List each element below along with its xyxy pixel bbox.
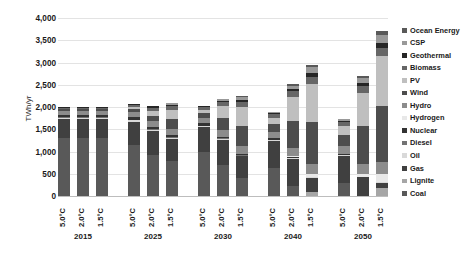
x-group-label-2025: 5.0°C2.0°C1.5°C2025 <box>128 197 178 241</box>
bar[interactable] <box>306 65 318 196</box>
legend-swatch-icon <box>402 153 407 158</box>
bar-group-2025 <box>128 18 178 196</box>
bar-segment-hydro <box>376 162 388 174</box>
legend-item-hydro[interactable]: Hydro <box>402 99 476 112</box>
bar-segment-hydro <box>306 164 318 174</box>
legend-label: Oil <box>410 152 420 159</box>
bar-segment-gas <box>217 140 229 165</box>
y-tick-label: 1,000 <box>12 147 56 156</box>
bar[interactable] <box>338 119 350 196</box>
stacked-bar-chart: TWh/yr 4,0003,5003,0002,5002,0001,5001,0… <box>0 0 476 255</box>
legend-item-hydrogen[interactable]: Hydrogen <box>402 112 476 125</box>
legend-label: PV <box>410 77 420 84</box>
bar-segment-lignite <box>306 192 318 196</box>
bar-segment-coal <box>236 178 248 196</box>
bar-segment-coal <box>77 138 89 196</box>
bar-segment-gas <box>357 177 369 196</box>
scenario-label: 2.0°C <box>147 197 159 227</box>
bar-group-2050 <box>338 18 388 196</box>
legend-item-csp[interactable]: CSP <box>402 37 476 50</box>
legend-swatch-icon <box>402 41 407 46</box>
bar-group-2040 <box>268 18 318 196</box>
bar-segment-pv <box>357 93 369 127</box>
x-axis-labels: 5.0°C2.0°C1.5°C20155.0°C2.0°C1.5°C20255.… <box>58 197 388 255</box>
bar-segment-wind <box>268 124 280 132</box>
bar-segment-hydro <box>287 148 299 156</box>
legend-item-lignite[interactable]: Lignite <box>402 175 476 188</box>
scenario-label: 1.5°C <box>376 197 388 227</box>
bar[interactable] <box>166 103 178 196</box>
legend: Ocean EnergyCSPGeothermalBiomassPVWindHy… <box>402 24 476 200</box>
bar-segment-pv <box>287 97 299 121</box>
scenario-label: 5.0°C <box>198 197 210 227</box>
bar-segment-pv <box>376 56 388 106</box>
legend-label: Geothermal <box>410 52 451 59</box>
legend-label: Diesel <box>410 139 432 146</box>
bar-group-2015 <box>58 18 108 196</box>
legend-swatch-icon <box>402 103 407 108</box>
bar-segment-gas <box>338 156 350 183</box>
legend-item-wind[interactable]: Wind <box>402 87 476 100</box>
legend-item-geothermal[interactable]: Geothermal <box>402 49 476 62</box>
legend-swatch-icon <box>402 53 407 58</box>
y-tick-label: 4,000 <box>12 14 56 23</box>
y-tick-label: 2,000 <box>12 103 56 112</box>
x-group-label-2040: 5.0°C2.0°C1.5°C2040 <box>268 197 318 241</box>
year-label: 2050 <box>354 232 372 241</box>
bar[interactable] <box>128 104 140 196</box>
bar-segment-pv <box>338 126 350 135</box>
bar-segment-pv <box>217 106 229 117</box>
scenario-label: 5.0°C <box>338 197 350 227</box>
bar-segment-pv <box>236 107 248 126</box>
y-tick-label: 2,500 <box>12 80 56 89</box>
bar-segment-wind <box>287 121 299 149</box>
bar-segment-wind <box>376 106 388 162</box>
x-group-label-2050: 5.0°C2.0°C1.5°C2050 <box>338 197 388 241</box>
legend-item-pv[interactable]: PV <box>402 74 476 87</box>
legend-item-diesel[interactable]: Diesel <box>402 137 476 150</box>
bar-segment-gas <box>268 141 280 169</box>
bar[interactable] <box>217 99 229 196</box>
plot-area <box>58 18 388 196</box>
legend-item-oil[interactable]: Oil <box>402 149 476 162</box>
legend-swatch-icon <box>402 191 407 196</box>
bar[interactable] <box>96 107 108 196</box>
scenario-label: 1.5°C <box>306 197 318 227</box>
bar[interactable] <box>198 106 210 196</box>
legend-swatch-icon <box>402 166 407 171</box>
legend-label: Ocean Energy <box>410 27 460 34</box>
y-tick-label: 500 <box>12 169 56 178</box>
bar-segment-hydro <box>338 146 350 153</box>
bar[interactable] <box>376 31 388 196</box>
bar-group-2030 <box>198 18 248 196</box>
bar-segment-gas <box>306 178 318 192</box>
bar-segment-wind <box>306 122 318 165</box>
bar[interactable] <box>77 107 89 196</box>
legend-item-biomass[interactable]: Biomass <box>402 62 476 75</box>
y-tick-label: 1,500 <box>12 125 56 134</box>
legend-label: CSP <box>410 39 425 46</box>
bar-segment-coal <box>128 145 140 196</box>
legend-swatch-icon <box>402 78 407 83</box>
bar-segment-wind <box>338 135 350 146</box>
scenario-label: 5.0°C <box>128 197 140 227</box>
legend-label: Biomass <box>410 64 441 71</box>
bar[interactable] <box>268 112 280 196</box>
legend-label: Lignite <box>410 177 434 184</box>
bar[interactable] <box>147 106 159 196</box>
bar-segment-coal <box>166 161 178 196</box>
bar-segment-biomass <box>306 77 318 84</box>
legend-item-gas[interactable]: Gas <box>402 162 476 175</box>
bar-segment-wind <box>357 126 369 164</box>
legend-item-nuclear[interactable]: Nuclear <box>402 124 476 137</box>
bar[interactable] <box>287 84 299 196</box>
legend-item-ocean-energy[interactable]: Ocean Energy <box>402 24 476 37</box>
bar-segment-hydrogen <box>376 174 388 182</box>
bar[interactable] <box>58 107 70 196</box>
bar-segment-coal <box>198 152 210 196</box>
legend-swatch-icon <box>402 141 407 146</box>
bar-segment-gas <box>198 127 210 152</box>
bar[interactable] <box>357 76 369 196</box>
bar[interactable] <box>236 96 248 196</box>
legend-item-coal[interactable]: Coal <box>402 187 476 200</box>
